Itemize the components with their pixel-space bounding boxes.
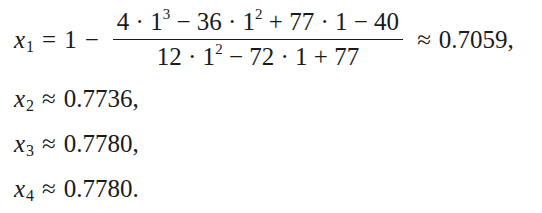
num-term-3: + 77 · 1 − 40 xyxy=(263,8,400,35)
equation-x3: x3 ≈ 0.7780, xyxy=(14,130,139,158)
num-term-2: − 36 · 1 xyxy=(170,8,255,35)
fraction: 4 · 13 − 36 · 12 + 77 · 1 − 40 12 · 12 −… xyxy=(113,8,403,72)
exponent: 2 xyxy=(215,41,223,57)
equation-x2: x2 ≈ 0.7736, xyxy=(14,85,139,113)
value: 0.7059, xyxy=(439,26,514,54)
exponent: 3 xyxy=(163,6,171,22)
variable-x: x xyxy=(14,26,25,54)
value: 0.7780, xyxy=(64,130,139,158)
exponent: 2 xyxy=(255,6,263,22)
approx-sign: ≈ xyxy=(42,175,56,203)
num-term-1: 4 · 1 xyxy=(117,8,163,35)
variable-x: x xyxy=(14,130,25,158)
subscript: 3 xyxy=(26,142,34,160)
equation-x1: x1 = 1 − 4 · 13 − 36 · 12 + 77 · 1 − 40 … xyxy=(14,8,514,72)
approx-sign: ≈ xyxy=(417,26,431,54)
value: 0.7736, xyxy=(64,85,139,113)
variable-x: x xyxy=(14,85,25,113)
denominator: 12 · 12 − 72 · 1 + 77 xyxy=(157,40,359,71)
den-term-2: − 72 · 1 + 77 xyxy=(223,44,360,71)
approx-sign: ≈ xyxy=(42,85,56,113)
subscript: 4 xyxy=(26,187,34,205)
approx-sign: ≈ xyxy=(42,130,56,158)
variable-x: x xyxy=(14,175,25,203)
minus-sign: − xyxy=(85,26,99,54)
equation-x4: x4 ≈ 0.7780. xyxy=(14,175,139,203)
den-term-1: 12 · 1 xyxy=(157,44,215,71)
constant-one: 1 xyxy=(64,26,77,54)
subscript: 2 xyxy=(26,97,34,115)
subscript: 1 xyxy=(26,38,34,56)
equals-sign: = xyxy=(42,26,56,54)
value: 0.7780. xyxy=(64,175,139,203)
numerator: 4 · 13 − 36 · 12 + 77 · 1 − 40 xyxy=(113,8,403,40)
